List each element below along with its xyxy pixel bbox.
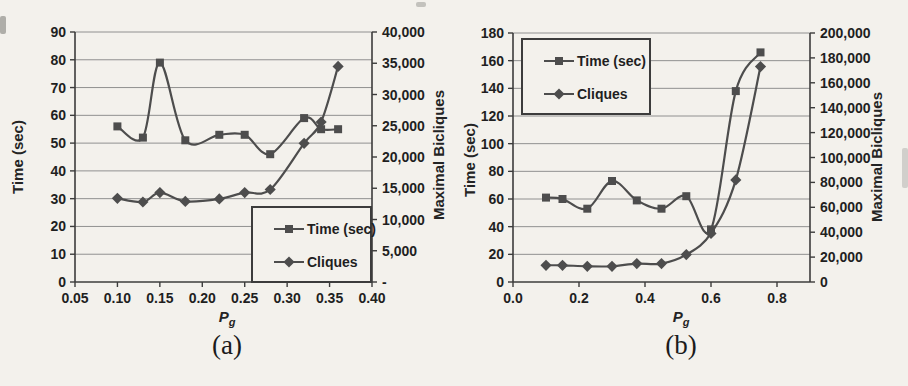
legend-label: Time (sec) — [307, 221, 376, 237]
scanned-figure: 0102030405060708090-5,00010,00015,00020,… — [0, 0, 908, 386]
legend-label: Cliques — [577, 86, 628, 102]
right-tick-label: 40,000 — [820, 224, 863, 240]
square-marker — [732, 87, 740, 95]
left-tick-label: 70 — [50, 80, 66, 96]
left-tick-label: 180 — [481, 25, 505, 41]
right-tick-label: 180,000 — [820, 50, 871, 66]
diamond-marker — [154, 187, 165, 198]
left-tick-label: 120 — [481, 108, 505, 124]
x-tick-label: 0.35 — [316, 290, 343, 306]
x-tick-label: 0.6 — [701, 290, 721, 306]
left-tick-label: 140 — [481, 80, 505, 96]
right-tick-label: 35,000 — [382, 55, 425, 71]
x-tick-label: 0.4 — [635, 290, 655, 306]
square-marker — [757, 48, 765, 56]
square-marker — [139, 134, 147, 142]
right-tick-label: 200,000 — [820, 25, 871, 41]
legend-box — [252, 207, 371, 282]
right-tick-label: 10,000 — [382, 212, 425, 228]
right-tick-label: 30,000 — [382, 87, 425, 103]
square-marker — [300, 114, 308, 122]
diamond-marker — [112, 193, 123, 204]
square-marker — [542, 194, 550, 202]
right-tick-label: 60,000 — [820, 199, 863, 215]
left-tick-label: 20 — [50, 218, 66, 234]
right-tick-label: - — [382, 274, 387, 290]
legend-label: Cliques — [307, 254, 358, 270]
left-tick-label: 40 — [50, 163, 66, 179]
diamond-marker — [606, 261, 617, 272]
left-tick-label: 40 — [488, 219, 504, 235]
chart-b-plot: 020406080100120140160180020,00040,00060,… — [454, 0, 908, 386]
x-tick-label: 0.05 — [61, 290, 88, 306]
right-tick-label: 160,000 — [820, 75, 871, 91]
right-tick-label: 15,000 — [382, 180, 425, 196]
right-tick-label: 20,000 — [382, 149, 425, 165]
diamond-marker — [333, 61, 344, 72]
square-marker — [682, 192, 690, 200]
x-tick-label: 0.2 — [569, 290, 589, 306]
diamond-marker — [239, 187, 250, 198]
left-tick-label: 100 — [481, 136, 505, 152]
x-tick-label: 0.0 — [503, 290, 523, 306]
chart-a-plot: 0102030405060708090-5,00010,00015,00020,… — [0, 0, 454, 386]
square-marker — [583, 205, 591, 213]
x-axis-symbol: P — [673, 308, 683, 325]
square-marker — [215, 131, 223, 139]
diamond-marker — [681, 249, 692, 260]
x-tick-label: 0.25 — [231, 290, 258, 306]
square-marker — [658, 205, 666, 213]
square-marker — [559, 195, 567, 203]
square-marker — [334, 125, 342, 133]
square-marker — [156, 59, 164, 67]
square-marker — [608, 177, 616, 185]
left-tick-label: 50 — [50, 135, 66, 151]
right-tick-label: 40,000 — [382, 24, 425, 40]
square-marker — [285, 225, 293, 233]
right-tick-label: 140,000 — [820, 100, 871, 116]
x-tick-label: 0.40 — [358, 290, 385, 306]
right-tick-label: 120,000 — [820, 125, 871, 141]
chart-b-x-axis-title: Pg — [454, 308, 908, 328]
chart-b-left-axis-title: Time (sec) — [461, 123, 478, 197]
x-axis-subscript: g — [229, 316, 236, 328]
left-tick-label: 80 — [488, 163, 504, 179]
left-tick-label: 160 — [481, 53, 505, 69]
chart-a-right-axis-title: Maximal Bicliques — [430, 90, 447, 220]
chart-a-left-axis-title: Time (sec) — [9, 120, 26, 194]
x-tick-label: 0.15 — [146, 290, 173, 306]
right-tick-label: 5,000 — [382, 243, 417, 259]
right-tick-label: 80,000 — [820, 174, 863, 190]
chart-b-right-axis-title: Maximal Bicliques — [868, 92, 885, 222]
x-axis-subscript: g — [683, 316, 690, 328]
right-tick-label: 0 — [820, 274, 828, 290]
left-tick-label: 80 — [50, 52, 66, 68]
left-tick-label: 0 — [496, 274, 504, 290]
left-tick-label: 20 — [488, 246, 504, 262]
x-tick-label: 0.20 — [189, 290, 216, 306]
diamond-marker — [137, 196, 148, 207]
square-marker — [241, 131, 249, 139]
left-tick-label: 30 — [50, 191, 66, 207]
right-tick-label: 25,000 — [382, 118, 425, 134]
diamond-marker — [180, 196, 191, 207]
right-tick-label: 20,000 — [820, 249, 863, 265]
chart-a: 0102030405060708090-5,00010,00015,00020,… — [0, 0, 454, 386]
x-tick-label: 0.8 — [767, 290, 787, 306]
legend-box — [522, 39, 650, 114]
x-tick-label: 0.30 — [274, 290, 301, 306]
square-marker — [633, 196, 641, 204]
square-marker — [555, 57, 563, 65]
diamond-marker — [631, 258, 642, 269]
legend-label: Time (sec) — [577, 53, 646, 69]
square-marker — [266, 150, 274, 158]
chart-b-caption: (b) — [454, 330, 908, 361]
chart-b: 020406080100120140160180020,00040,00060,… — [454, 0, 908, 386]
diamond-marker — [656, 258, 667, 269]
diamond-marker — [214, 193, 225, 204]
right-tick-label: 100,000 — [820, 150, 871, 166]
diamond-marker — [755, 61, 766, 72]
left-tick-label: 60 — [488, 191, 504, 207]
left-tick-label: 10 — [50, 246, 66, 262]
square-marker — [181, 136, 189, 144]
